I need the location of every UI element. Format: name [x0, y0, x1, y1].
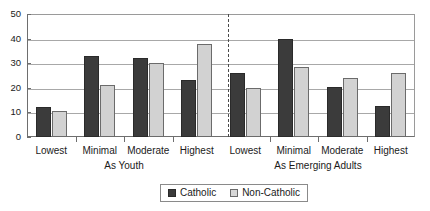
bar-catholic-moderate-as-emerging-adults: [327, 87, 342, 137]
x-tick-panel1-1: [76, 137, 77, 142]
legend-swatch-noncatholic: [230, 189, 238, 197]
bar-non-catholic-lowest-as-emerging-adults: [246, 88, 261, 137]
bar-non-catholic-highest-as-emerging-adults: [391, 73, 406, 137]
legend-entry-catholic[interactable]: Catholic: [168, 187, 216, 198]
y-tick-label-20: 20: [0, 83, 21, 93]
y-axis: 50 40 30 20 10 0: [0, 14, 21, 137]
x-tick-panel2-3: [367, 137, 368, 142]
x-label-minimal-panel1: Minimal: [83, 145, 117, 157]
bar-non-catholic-minimal-as-youth: [100, 85, 115, 137]
bar-catholic-highest-as-youth: [181, 80, 196, 137]
x-tick-panel2-1: [270, 137, 271, 142]
x-label-highest-panel1: Highest: [180, 145, 214, 157]
bar-catholic-minimal-as-emerging-adults: [278, 39, 293, 137]
x-tick-panel1-2: [124, 137, 125, 142]
panel-label-as-emerging-adults: As Emerging Adults: [274, 160, 361, 172]
grouped-bar-chart: 50 40 30 20 10 0 LowestMinimalModerateHi…: [0, 0, 430, 211]
bar-catholic-lowest-as-emerging-adults: [230, 73, 245, 137]
legend-label-catholic: Catholic: [180, 187, 216, 198]
x-label-moderate-panel2: Moderate: [321, 145, 363, 157]
bar-non-catholic-highest-as-youth: [197, 44, 212, 137]
x-tick-panel1-3: [173, 137, 174, 142]
panel-divider: [228, 14, 229, 137]
bar-catholic-lowest-as-youth: [36, 107, 51, 137]
y-tick-label-50: 50: [0, 9, 21, 19]
bar-catholic-minimal-as-youth: [84, 56, 99, 137]
x-label-moderate-panel1: Moderate: [127, 145, 169, 157]
x-label-minimal-panel2: Minimal: [277, 145, 311, 157]
bar-catholic-moderate-as-youth: [133, 58, 148, 137]
bar-non-catholic-moderate-as-youth: [149, 63, 164, 137]
y-tick-label-40: 40: [0, 34, 21, 44]
x-tick-panel2-2: [318, 137, 319, 142]
panel-label-as-youth: As Youth: [104, 160, 143, 172]
y-tick-mark-0: [27, 137, 31, 138]
x-label-lowest-panel1: Lowest: [35, 145, 67, 157]
bars-layer: [27, 14, 415, 137]
bar-non-catholic-lowest-as-youth: [52, 111, 67, 137]
x-label-highest-panel2: Highest: [374, 145, 408, 157]
bar-non-catholic-minimal-as-emerging-adults: [294, 67, 309, 137]
y-tick-label-0: 0: [0, 132, 21, 142]
y-tick-label-10: 10: [0, 108, 21, 118]
x-label-lowest-panel2: Lowest: [229, 145, 261, 157]
legend-label-noncatholic: Non-Catholic: [242, 187, 300, 198]
legend-entry-noncatholic[interactable]: Non-Catholic: [230, 187, 300, 198]
bar-non-catholic-moderate-as-emerging-adults: [343, 78, 358, 137]
y-tick-label-30: 30: [0, 58, 21, 68]
legend-swatch-catholic: [168, 189, 176, 197]
bar-catholic-highest-as-emerging-adults: [375, 106, 390, 137]
legend: Catholic Non-Catholic: [160, 184, 308, 202]
